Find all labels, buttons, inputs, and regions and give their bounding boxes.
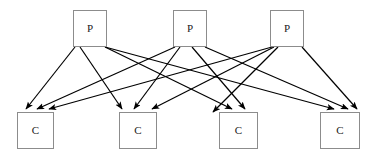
consumer-node-2[interactable]: C [119,112,157,149]
consumer-node-1-label: C [32,125,39,136]
consumer-node-4-label: C [336,125,343,136]
producer-node-3-label: P [284,23,290,34]
edge-p3-to-c4 [302,47,357,109]
consumer-node-3-label: C [235,125,242,136]
edge-p1-to-c2 [80,47,122,109]
edge-p1-to-c4 [105,47,334,109]
edge-p2-to-c4 [205,47,348,109]
producer-node-2-label: P [187,23,193,34]
consumer-node-4[interactable]: C [320,112,360,149]
edge-p2-to-c1 [37,47,175,109]
diagram-canvas: P P P C C C C [0,0,379,161]
producer-node-2[interactable]: P [173,10,207,47]
producer-node-1-label: P [87,23,93,34]
consumer-node-1[interactable]: C [17,112,54,149]
consumer-node-2-label: C [134,125,141,136]
edge-p1-to-c1 [26,47,75,109]
edge-p3-to-c1 [49,47,272,109]
consumer-node-3[interactable]: C [219,112,258,149]
producer-node-1[interactable]: P [73,10,107,47]
producer-node-3[interactable]: P [270,10,304,47]
edge-group [26,47,357,112]
